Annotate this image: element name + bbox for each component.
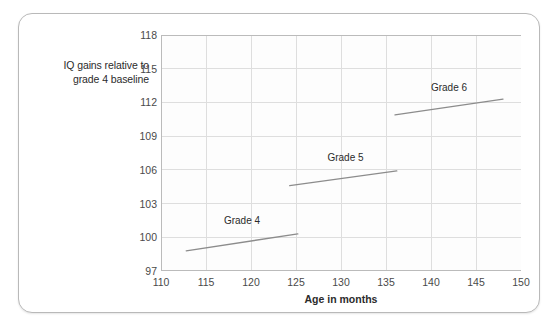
x-tick-label: 145 (456, 276, 496, 288)
y-tick-label: 118 (127, 29, 157, 41)
y-axis-tick-labels: 97100103106109112115118 (123, 35, 157, 271)
x-tick-label: 130 (321, 276, 361, 288)
x-tick-label: 135 (366, 276, 406, 288)
y-tick-label: 100 (127, 231, 157, 243)
x-axis-title: Age in months (161, 293, 521, 305)
series-label-grade-6: Grade 6 (431, 81, 467, 92)
x-tick-label: 125 (276, 276, 316, 288)
x-tick-label: 115 (186, 276, 226, 288)
x-tick-label: 120 (231, 276, 271, 288)
series-label-grade-5: Grade 5 (327, 152, 363, 163)
series-label-grade-4: Grade 4 (224, 215, 260, 226)
figure-frame: IQ gains relative to grade 4 baseline 97… (18, 13, 540, 313)
x-tick-label: 110 (141, 276, 181, 288)
y-tick-label: 112 (127, 96, 157, 108)
series-lines (186, 99, 503, 251)
y-tick-label: 109 (127, 130, 157, 142)
x-tick-label: 140 (411, 276, 451, 288)
y-tick-label: 115 (127, 63, 157, 75)
y-tick-label: 103 (127, 198, 157, 210)
x-axis-tick-labels: 110115120125130135140145150 (161, 276, 521, 292)
x-tick-label: 150 (501, 276, 541, 288)
y-tick-label: 106 (127, 164, 157, 176)
